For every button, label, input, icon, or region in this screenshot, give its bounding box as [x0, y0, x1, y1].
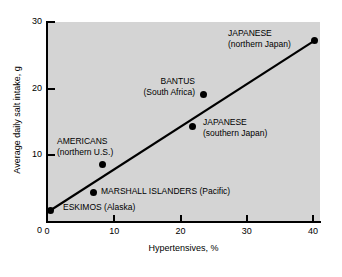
x-tick-label-20: 20: [169, 226, 193, 236]
point-label-marshall-islanders: MARSHALL ISLANDERS (Pacific): [101, 186, 230, 197]
point-label-bantus: BANTUS (South Africa): [85, 76, 195, 97]
point-label-bantus-line2: (South Africa): [85, 87, 195, 98]
point-label-bantus-line1: BANTUS: [85, 76, 195, 87]
y-tick-label-30: 30: [20, 16, 42, 26]
point-label-japanese-northern-line2: (northern Japan): [228, 39, 291, 50]
data-point-americans[interactable]: [99, 161, 106, 168]
x-tick-20: [180, 215, 182, 222]
point-label-marshall-islanders-line1: MARSHALL ISLANDERS (Pacific): [101, 186, 230, 197]
x-tick-label-30: 30: [235, 226, 259, 236]
point-label-japanese-northern: JAPANESE (northern Japan): [228, 28, 291, 49]
point-label-japanese-southern-line2: (southern Japan): [203, 128, 267, 139]
x-tick-40: [312, 215, 314, 222]
point-label-eskimos-line1: ESKIMOS (Alaska): [63, 202, 135, 213]
x-axis-title: Hypertensives, %: [47, 243, 320, 253]
point-label-americans-line1: AMERICANS: [57, 136, 113, 147]
y-axis-title: Average daily salt intake, g: [12, 40, 22, 200]
point-label-japanese-southern: JAPANESE (southern Japan): [203, 117, 267, 138]
scatter-chart-figure: 30 20 10 0 0 10 20 30 40 Average daily s…: [0, 0, 342, 277]
point-label-americans: AMERICANS (northern U.S.): [57, 136, 113, 157]
y-tick-label-10: 10: [20, 149, 42, 159]
y-tick-20: [48, 88, 55, 90]
x-tick-label-0: 0: [35, 226, 59, 236]
x-tick-label-40: 40: [301, 226, 325, 236]
data-point-marshall-islanders[interactable]: [90, 189, 97, 196]
y-tick-10: [48, 154, 55, 156]
point-label-americans-line2: (northern U.S.): [57, 147, 113, 158]
x-tick-30: [246, 215, 248, 222]
data-point-japanese-southern[interactable]: [189, 123, 196, 130]
point-label-japanese-southern-line1: JAPANESE: [203, 117, 267, 128]
x-tick-10: [113, 215, 115, 222]
point-label-eskimos: ESKIMOS (Alaska): [63, 202, 135, 213]
x-axis-line: [46, 221, 321, 223]
y-axis-line: [46, 21, 48, 223]
point-label-japanese-northern-line1: JAPANESE: [228, 28, 291, 39]
x-tick-label-10: 10: [102, 226, 126, 236]
y-tick-label-20: 20: [20, 83, 42, 93]
y-tick-30: [48, 21, 55, 23]
